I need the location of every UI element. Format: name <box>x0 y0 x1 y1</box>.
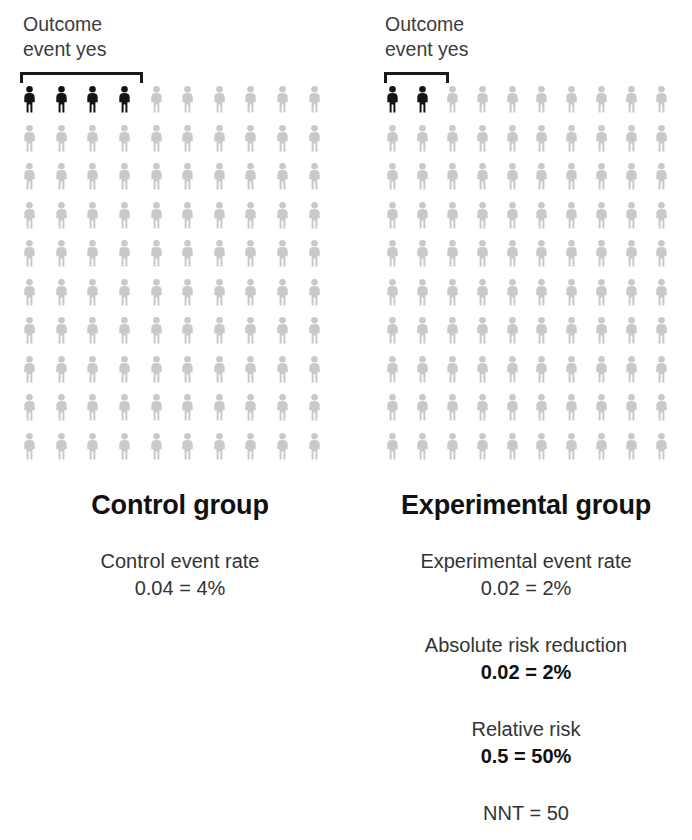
person-icon <box>307 163 322 190</box>
person-icon <box>307 317 322 344</box>
experimental-stat-label-1: Absolute risk reduction <box>360 632 692 659</box>
person-icon <box>594 125 609 152</box>
person-icon <box>385 240 400 267</box>
person-icon <box>307 433 322 460</box>
person-icon <box>594 163 609 190</box>
person-icon <box>475 202 490 229</box>
experimental-stat-label-0: Experimental event rate <box>360 548 692 575</box>
person-icon <box>54 433 69 460</box>
person-icon <box>624 279 639 306</box>
person-icon <box>22 125 37 152</box>
person-icon <box>594 356 609 383</box>
person-icon <box>275 240 290 267</box>
person-icon <box>445 279 460 306</box>
person-icon <box>475 394 490 421</box>
experimental-stat-3: NNT = 50 <box>360 800 692 827</box>
person-icon <box>54 202 69 229</box>
person-icon <box>22 356 37 383</box>
person-icon <box>22 240 37 267</box>
person-icon <box>534 356 549 383</box>
person-icon <box>415 356 430 383</box>
experimental-outcome-event-label: Outcome event yes <box>385 12 468 62</box>
person-icon <box>534 394 549 421</box>
person-icon <box>624 317 639 344</box>
person-icon <box>307 240 322 267</box>
person-icon <box>307 86 322 113</box>
person-icon <box>415 317 430 344</box>
person-icon <box>385 163 400 190</box>
person-icon <box>243 163 258 190</box>
person-icon <box>117 317 132 344</box>
person-icon <box>212 317 227 344</box>
person-icon <box>275 86 290 113</box>
control-stat-label-0: Control event rate <box>0 548 360 575</box>
person-icon <box>54 394 69 421</box>
person-icon <box>505 394 520 421</box>
person-icon <box>85 202 100 229</box>
person-icon <box>505 202 520 229</box>
person-icon <box>149 317 164 344</box>
person-icon <box>149 240 164 267</box>
person-icon <box>654 163 669 190</box>
person-icon <box>385 125 400 152</box>
person-icon <box>180 163 195 190</box>
person-icon <box>243 317 258 344</box>
person-icon <box>180 356 195 383</box>
person-icon <box>180 86 195 113</box>
person-icon-event <box>415 86 430 113</box>
person-icon-event <box>385 86 400 113</box>
person-icon <box>307 394 322 421</box>
person-icon <box>117 240 132 267</box>
person-icon <box>415 433 430 460</box>
person-icon <box>307 279 322 306</box>
person-icon <box>594 279 609 306</box>
person-icon <box>180 394 195 421</box>
person-icon <box>22 202 37 229</box>
person-icon <box>212 356 227 383</box>
person-icon <box>534 433 549 460</box>
person-icon <box>117 356 132 383</box>
person-icon <box>22 394 37 421</box>
person-icon <box>149 356 164 383</box>
experimental-stat-value-1: 0.02 = 2% <box>360 659 692 686</box>
person-icon <box>85 317 100 344</box>
person-icon <box>22 279 37 306</box>
person-icon <box>415 240 430 267</box>
person-icon <box>564 279 579 306</box>
person-icon <box>445 86 460 113</box>
experimental-stat-value-0: 0.02 = 2% <box>360 575 692 602</box>
experimental-pictogram-grid <box>378 86 676 471</box>
control-outcome-bracket <box>20 72 143 83</box>
pictogram-infographic: Outcome event yes Control group Control … <box>0 0 692 840</box>
experimental-group-panel: Outcome event yes Experimental group Exp… <box>360 0 692 840</box>
person-icon <box>534 86 549 113</box>
person-icon <box>243 202 258 229</box>
person-icon <box>54 317 69 344</box>
person-icon <box>654 125 669 152</box>
person-icon <box>475 86 490 113</box>
person-icon <box>505 125 520 152</box>
control-stat-value-0: 0.04 = 4% <box>0 575 360 602</box>
person-icon <box>445 433 460 460</box>
person-icon <box>534 202 549 229</box>
person-icon <box>654 356 669 383</box>
person-icon <box>564 356 579 383</box>
experimental-stat-1: Absolute risk reduction0.02 = 2% <box>360 632 692 686</box>
person-icon <box>275 279 290 306</box>
person-icon <box>149 279 164 306</box>
person-icon-event <box>85 86 100 113</box>
person-icon <box>22 317 37 344</box>
person-icon <box>624 433 639 460</box>
person-icon <box>117 394 132 421</box>
person-icon <box>180 433 195 460</box>
person-icon <box>445 317 460 344</box>
person-icon <box>654 433 669 460</box>
person-icon <box>180 317 195 344</box>
control-group-panel: Outcome event yes Control group Control … <box>0 0 360 840</box>
person-icon <box>564 202 579 229</box>
person-icon <box>654 240 669 267</box>
control-stats-list: Control event rate0.04 = 4% <box>0 548 360 602</box>
experimental-stat-0: Experimental event rate0.02 = 2% <box>360 548 692 602</box>
person-icon <box>54 240 69 267</box>
person-icon <box>624 240 639 267</box>
